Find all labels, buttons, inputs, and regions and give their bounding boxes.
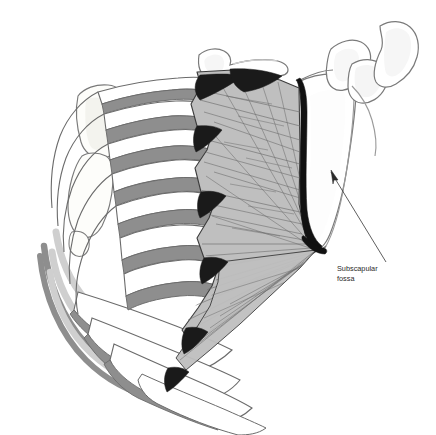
serratus-anterior-illustration: Subscapular fossa (0, 0, 436, 435)
callout-label-line2: fossa (337, 274, 355, 283)
anatomy-figure: Serratus anterior. (0, 0, 436, 435)
callout-label-line1: Subscapular (337, 264, 378, 273)
